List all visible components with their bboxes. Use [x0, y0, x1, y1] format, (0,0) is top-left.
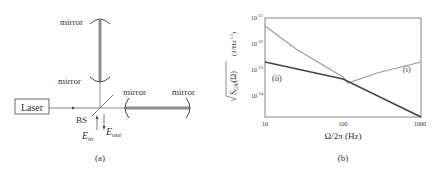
xtick-10: 10 [262, 121, 268, 127]
panel-a-interferometer: Laser BS mirror mirror mirror mirror Ein… [15, 17, 195, 163]
panel-a-caption: (a) [95, 153, 105, 163]
curve-i-label: (i) [403, 65, 411, 74]
arrow-up-icon [96, 115, 99, 119]
panel-b-caption: (b) [338, 153, 349, 163]
e-in-label: Ein [81, 130, 94, 143]
ytick-1e-23: 10-23 [251, 65, 264, 73]
x-axis-label: Ω/2π (Hz) [325, 131, 362, 141]
curve-ii-label: (ii) [272, 74, 282, 83]
curve-i [265, 26, 421, 83]
bs-label: BS [76, 115, 87, 125]
mirror-label-horizontal-inner: mirror [123, 87, 146, 97]
y-axis-label: SGW(Ω) (1/Hz1/2) [226, 31, 239, 101]
curve-ii [265, 62, 421, 117]
xtick-1000: 1000 [414, 121, 426, 127]
figure: Laser BS mirror mirror mirror mirror Ein… [0, 0, 441, 174]
mirror-label-vertical-inner: mirror [58, 76, 81, 86]
ytick-1e-21: 10-21 [251, 13, 263, 21]
y-label-s: SGW(Ω) [229, 71, 239, 95]
e-out-label: Eout [105, 126, 122, 139]
beam-arrow-icon [72, 107, 75, 110]
x-axis-ticks: 10 100 1000 [262, 121, 426, 127]
ytick-1e-24: 10-24 [251, 91, 264, 99]
mirror-label-top: mirror [60, 17, 83, 27]
ytick-1e-22: 10-22 [251, 39, 263, 47]
panel-b-chart: 10-21 10-22 10-23 10-24 10 100 1000 Ω/2π… [226, 13, 426, 163]
xtick-100: 100 [339, 121, 348, 127]
mirror-label-right: mirror [172, 87, 195, 97]
beam-splitter [92, 95, 113, 116]
laser-label: Laser [21, 102, 44, 113]
y-axis-ticks: 10-21 10-22 10-23 10-24 [251, 13, 264, 99]
y-label-units: (1/Hz1/2) [229, 31, 238, 56]
